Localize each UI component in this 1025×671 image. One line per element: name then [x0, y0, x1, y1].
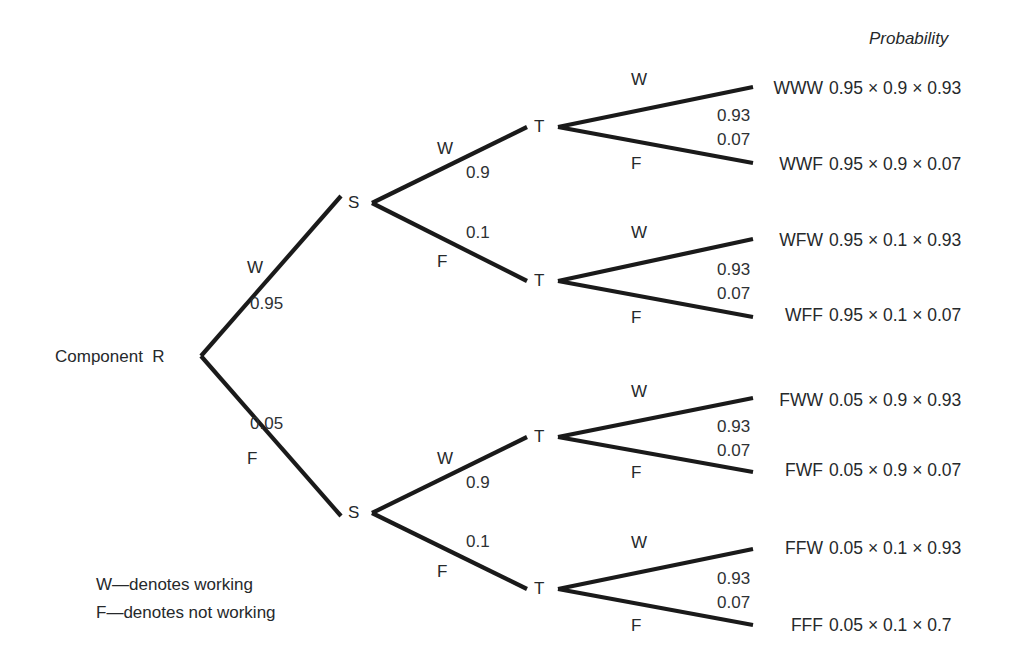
branch-prob-t3-f: 0.07	[717, 442, 750, 459]
branch-prob-r-w: 0.95	[250, 295, 283, 312]
branch-label-t3-f: F	[631, 464, 641, 481]
branch-s1-f	[372, 203, 527, 281]
branch-label-t4-w: W	[631, 534, 647, 551]
node-t2: T	[534, 272, 544, 289]
branch-label-t1-f: F	[631, 155, 641, 172]
outcome-code-fff: FFF	[771, 615, 823, 636]
branch-prob-t1-w: 0.93	[717, 107, 750, 124]
branch-label-t3-w: W	[631, 383, 647, 400]
probability-tree-diagram: Probability Component R S S T T T T W 0.…	[0, 0, 1025, 671]
branch-r-w	[201, 196, 341, 356]
outcome-expression-fwf: 0.05 × 0.9 × 0.07	[829, 460, 961, 481]
branch-prob-s2-w: 0.9	[466, 474, 490, 491]
branch-label-t4-f: F	[631, 617, 641, 634]
node-t4: T	[534, 580, 544, 597]
node-s-lower: S	[348, 504, 359, 521]
branch-label-t2-w: W	[631, 224, 647, 241]
outcome-code-wff: WFF	[771, 305, 823, 326]
branch-label-r-w: W	[247, 259, 263, 276]
outcome-expression-wff: 0.95 × 0.1 × 0.07	[829, 305, 961, 326]
outcome-code-wwf: WWF	[771, 154, 823, 175]
outcome-expression-wwf: 0.95 × 0.9 × 0.07	[829, 154, 961, 175]
outcome-expression-ffw: 0.05 × 0.1 × 0.93	[829, 538, 961, 559]
branch-prob-t1-f: 0.07	[717, 131, 750, 148]
outcome-expression-www: 0.95 × 0.9 × 0.93	[829, 78, 961, 99]
legend-line-not-working: F—denotes not working	[96, 603, 276, 623]
branch-prob-r-f: 0.05	[250, 415, 283, 432]
root-node-label: Component R	[55, 348, 165, 365]
branch-label-r-f: F	[247, 450, 257, 467]
outcome-code-ffw: FFW	[771, 538, 823, 559]
branch-prob-t2-f: 0.07	[717, 285, 750, 302]
branch-prob-t4-w: 0.93	[717, 570, 750, 587]
branch-s2-f	[372, 513, 527, 589]
node-t3: T	[534, 428, 544, 445]
outcome-code-www: WWW	[771, 78, 823, 99]
branch-prob-s1-w: 0.9	[466, 164, 490, 181]
probability-column-header: Probability	[869, 30, 948, 47]
outcome-code-fww: FWW	[771, 390, 823, 411]
branch-label-t2-f: F	[631, 309, 641, 326]
branch-label-s2-w: W	[437, 450, 453, 467]
outcome-expression-wfw: 0.95 × 0.1 × 0.93	[829, 230, 961, 251]
tree-branch-lines	[0, 0, 1025, 671]
outcome-code-wfw: WFW	[771, 230, 823, 251]
branch-r-f	[201, 356, 341, 516]
node-s-upper: S	[348, 194, 359, 211]
legend-line-working: W—denotes working	[96, 575, 253, 595]
branch-label-s1-w: W	[437, 140, 453, 157]
branch-prob-s1-f: 0.1	[466, 224, 490, 241]
branch-label-s2-f: F	[437, 563, 447, 580]
branch-label-t1-w: W	[631, 71, 647, 88]
outcome-expression-fww: 0.05 × 0.9 × 0.93	[829, 390, 961, 411]
branch-prob-t2-w: 0.93	[717, 261, 750, 278]
branch-prob-s2-f: 0.1	[466, 533, 490, 550]
branch-prob-t3-w: 0.93	[717, 418, 750, 435]
outcome-expression-fff: 0.05 × 0.1 × 0.7	[829, 615, 952, 636]
outcome-code-fwf: FWF	[771, 460, 823, 481]
branch-prob-t4-f: 0.07	[717, 594, 750, 611]
branch-label-s1-f: F	[437, 253, 447, 270]
node-t1: T	[534, 118, 544, 135]
